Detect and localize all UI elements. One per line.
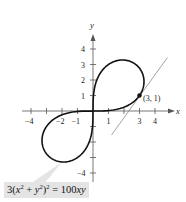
x-tick-1: 1 [107, 117, 111, 126]
x-axis-label: x [175, 106, 180, 116]
y-axis-label: y [89, 20, 94, 30]
y-tick-1: 1 [81, 92, 85, 101]
y-tick-4: 4 [81, 45, 85, 54]
equation-label: 3(x2 + y2)2 = 100xy [4, 182, 89, 198]
x-tick-neg4: −4 [25, 117, 34, 126]
x-axis-arrow-icon [168, 109, 175, 114]
y-tick-3: 3 [81, 61, 85, 70]
y-tick-2: 2 [81, 76, 85, 85]
point-3-1 [137, 93, 141, 97]
x-tick-neg1: −1 [72, 117, 81, 126]
point-label: (3, 1) [143, 94, 161, 103]
x-tick-3: 3 [138, 117, 142, 126]
y-tick-neg4: −4 [77, 169, 86, 178]
equation-callout-pointer [30, 162, 62, 184]
lemniscate-plot: y x 4 3 2 1 −4 −4 −2 −1 1 3 4 (3, 1) [0, 0, 186, 202]
x-tick-neg2: −2 [56, 117, 65, 126]
x-tick-4: 4 [153, 117, 157, 126]
y-axis-arrow-icon [91, 34, 96, 41]
